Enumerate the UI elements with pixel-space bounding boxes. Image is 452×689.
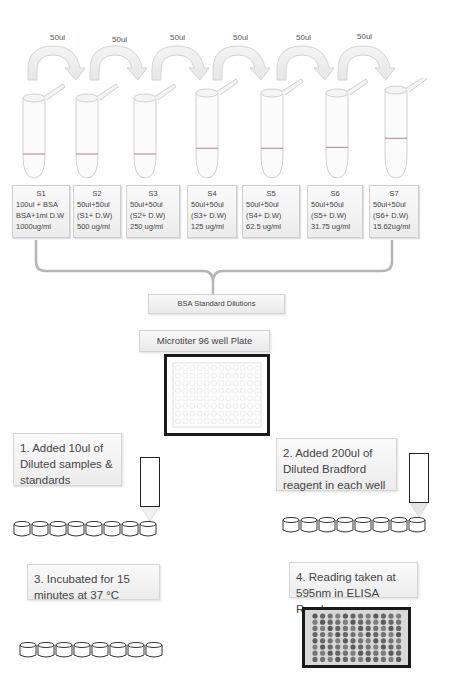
- sample-concentration: 1000ug/ml: [16, 221, 66, 232]
- filled-plate-well: [312, 657, 317, 662]
- filled-plate-well: [320, 638, 325, 643]
- step-2-box: 2. Added 200ul of Diluted Bradford reage…: [276, 438, 397, 491]
- plate-well: [226, 419, 231, 424]
- plate-well: [226, 381, 231, 386]
- plate-well: [183, 381, 188, 386]
- plate-well: [240, 411, 245, 416]
- plate-well: [226, 373, 231, 378]
- plate-well: [233, 403, 238, 408]
- sample-concentration: 62.5 ug/ml: [246, 221, 296, 232]
- plate-well: [190, 365, 195, 370]
- plate-well: [233, 365, 238, 370]
- plate-well: [247, 388, 252, 393]
- plate-well: [247, 373, 252, 378]
- filled-plate-well: [312, 626, 317, 631]
- filled-plate-well: [335, 632, 340, 637]
- filled-plate-well: [335, 613, 340, 618]
- filled-plate-well: [358, 657, 363, 662]
- sample-source: (S1+ D.W): [77, 210, 117, 221]
- plate-well: [211, 411, 216, 416]
- plate-well: [190, 396, 195, 401]
- plate-well: [233, 381, 238, 386]
- filled-plate-well: [358, 638, 363, 643]
- plate-well: [247, 381, 252, 386]
- plate-well: [226, 365, 231, 370]
- plate-well: [204, 403, 209, 408]
- filled-plate-well: [373, 632, 378, 637]
- filled-plate-well: [366, 651, 371, 656]
- well-cylinder-icon: [32, 522, 48, 537]
- step-3-box: 3. Incubated for 15 minutes at 37 °C: [27, 564, 160, 600]
- filled-plate-well: [373, 651, 378, 656]
- filled-plate-well: [373, 620, 378, 625]
- plate-well: [255, 373, 260, 378]
- filled-plate-well: [396, 651, 401, 656]
- sample-id: S2: [77, 188, 117, 199]
- plate-well: [204, 381, 209, 386]
- sample-source: (S3+ D.W): [191, 210, 233, 221]
- plate-well: [204, 419, 209, 424]
- plate-well: [175, 365, 180, 370]
- plate-well: [219, 403, 224, 408]
- filled-plate-well: [358, 632, 363, 637]
- filled-plate-well: [381, 651, 386, 656]
- sample-concentration: 31.75 ug/ml: [311, 221, 359, 232]
- plate-well: [233, 388, 238, 393]
- plate-well: [190, 388, 195, 393]
- plate-well: [175, 396, 180, 401]
- plate-well: [211, 388, 216, 393]
- filled-plate-well: [373, 638, 378, 643]
- filled-plate-well: [335, 638, 340, 643]
- filled-plate-well: [388, 638, 393, 643]
- plate-well: [247, 419, 252, 424]
- sample-box-s7: S7 50ul+50ul (S6+ D.W) 15.62ug/ml: [369, 185, 419, 238]
- plate-well: [255, 381, 260, 386]
- well-cylinder-icon: [86, 522, 102, 537]
- sample-composition: 50ul+50ul: [77, 199, 117, 210]
- filled-plate-well: [358, 644, 363, 649]
- bsa-standard-dilutions-label: BSA Standard Dilutions: [148, 294, 285, 314]
- filled-plate-well: [320, 644, 325, 649]
- filled-plate-well: [358, 620, 363, 625]
- filled-plate-well: [350, 626, 355, 631]
- filled-plate-well: [350, 657, 355, 662]
- filled-plate-well: [312, 638, 317, 643]
- plate-well: [190, 403, 195, 408]
- sample-composition: 50ul+50ul: [373, 199, 415, 210]
- sample-box-s4: S4 50ul+50ul (S3+ D.W) 125 ug/ml: [187, 185, 237, 238]
- filled-plate-well: [381, 644, 386, 649]
- well-cylinder-icon: [301, 518, 317, 533]
- filled-plate-well: [312, 651, 317, 656]
- plate-well: [240, 403, 245, 408]
- empty-microtiter-plate: [164, 354, 270, 436]
- plate-well: [197, 411, 202, 416]
- filled-plate-well: [320, 613, 325, 618]
- well-cylinder-icon: [337, 518, 353, 533]
- filled-plate-well: [335, 651, 340, 656]
- well-cylinder-icon: [14, 522, 30, 537]
- plate-well: [247, 403, 252, 408]
- plate-well: [175, 388, 180, 393]
- sample-composition: 50ul+50ul: [246, 199, 296, 210]
- filled-plate-well: [381, 626, 386, 631]
- microtiter-plate-label: Microtiter 96 well Plate: [139, 330, 270, 352]
- microcentrifuge-tube-icon: [76, 84, 118, 178]
- filled-plate-well: [335, 657, 340, 662]
- filled-plate-well: [328, 626, 333, 631]
- plate-well: [190, 419, 195, 424]
- filled-plate-well: [343, 657, 348, 662]
- filled-plate-well: [343, 613, 348, 618]
- plate-well: [211, 403, 216, 408]
- plate-well: [183, 388, 188, 393]
- pipette-step-2: [409, 453, 429, 503]
- filled-plate-well: [312, 644, 317, 649]
- plate-well: [197, 396, 202, 401]
- curved-arrow-icon: [213, 46, 270, 80]
- plate-well: [197, 381, 202, 386]
- plate-well: [255, 403, 260, 408]
- plate-well: [190, 411, 195, 416]
- read-microtiter-plate: [302, 607, 411, 668]
- plate-well: [233, 419, 238, 424]
- plate-well: [247, 411, 252, 416]
- plate-well: [255, 396, 260, 401]
